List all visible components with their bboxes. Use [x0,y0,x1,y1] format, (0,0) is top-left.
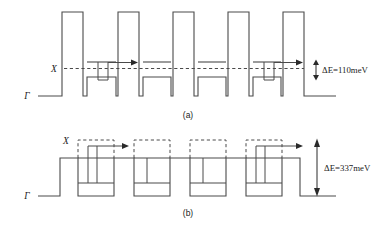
panel-a-transport-arrow-1 [108,60,138,66]
panel-a-gamma-label: Γ [23,91,30,101]
panel-a-delta-e-label: ΔE=110meV [322,65,369,75]
band-diagram-svg: Γ X ΔE=110meV (a) [0,0,387,232]
panel-b-x-label: X [62,136,70,146]
panel-b-gamma-band-edge [38,158,336,196]
panel-b-gamma-label: Γ [23,191,30,201]
panel-a-caption: (a) [183,110,194,120]
panel-b-caption: (b) [183,208,194,218]
panel-b: Γ X ΔE=337meV (b) [23,136,371,218]
panel-b-transport-arrow-1 [88,143,129,149]
panel-a-delta-e-arrow [313,60,319,81]
panel-a-transport-arrow-2 [274,60,303,66]
panel-b-transport-arrow-2 [256,143,303,149]
panel-b-x-box-1 [78,140,114,158]
panel-a-gamma-band-edge [38,12,336,96]
panel-b-x-box-4 [246,140,282,158]
panel-b-x-box-2 [134,140,170,158]
figure-container: Γ X ΔE=110meV (a) [0,0,387,232]
panel-a-x-label: X [50,64,58,74]
panel-b-delta-e-arrow [314,139,320,197]
panel-b-x-box-3 [190,140,226,158]
panel-a: Γ X ΔE=110meV (a) [23,12,368,120]
panel-b-delta-e-label: ΔE=337meV [324,163,371,173]
